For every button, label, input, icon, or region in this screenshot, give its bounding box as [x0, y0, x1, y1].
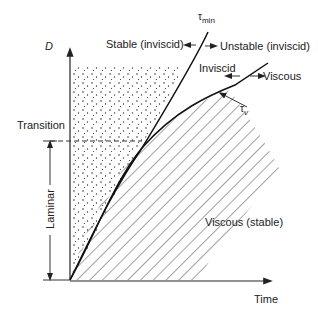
y-axis-label: D: [45, 40, 53, 52]
tau-min-label: τmin: [198, 11, 215, 25]
transition-label: Transition: [17, 119, 65, 131]
stable-inviscid-label: Stable (inviscid): [106, 38, 184, 50]
laminar-label: Laminar: [44, 189, 56, 229]
tau-v-label: τv: [240, 103, 248, 117]
viscous-stable-label: Viscous (stable): [205, 216, 283, 228]
inviscid-label: Inviscid: [199, 62, 236, 74]
x-axis-label: Time: [254, 293, 278, 305]
unstable-inviscid-label: Unstable (inviscid): [220, 40, 310, 52]
viscous-label: Viscous: [263, 70, 301, 82]
